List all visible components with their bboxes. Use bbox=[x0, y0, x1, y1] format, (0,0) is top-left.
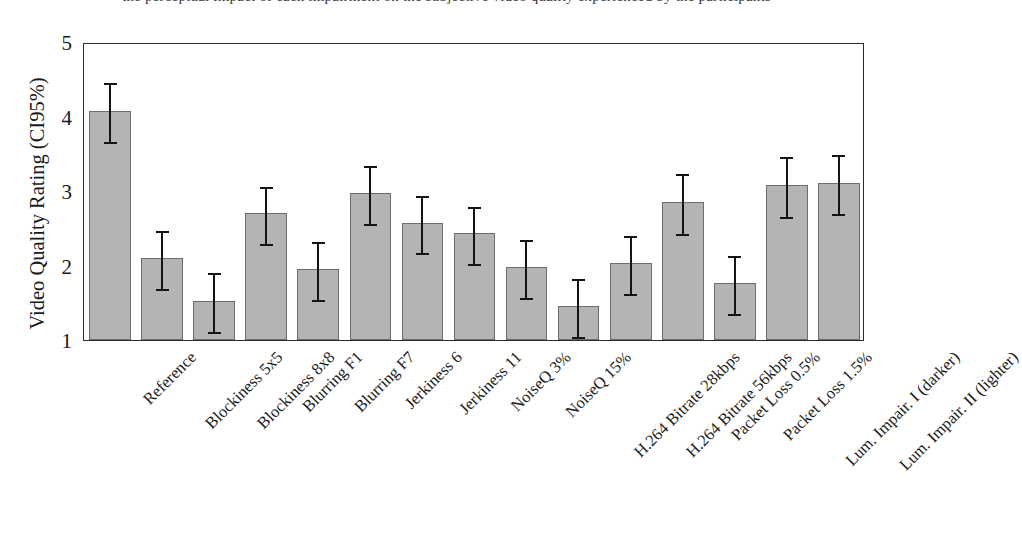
error-bar-cap-lower bbox=[520, 298, 533, 300]
x-tick-label: Jerkiness 6 bbox=[403, 349, 466, 412]
y-tick-label-1: 1 bbox=[62, 331, 73, 352]
error-bar-cap-upper bbox=[624, 236, 637, 238]
error-bar-cap-lower bbox=[468, 264, 481, 266]
y-tick-label-5: 5 bbox=[62, 33, 73, 54]
error-bar-line bbox=[473, 207, 475, 264]
x-tick-label: NoiseQ 3% bbox=[508, 349, 574, 415]
error-bar-cap-upper bbox=[468, 207, 481, 209]
error-bar-line bbox=[161, 231, 163, 289]
error-bar-line bbox=[577, 279, 579, 336]
error-bar-cap-lower bbox=[832, 214, 845, 216]
x-tick-label: Jerkiness 11 bbox=[457, 349, 526, 418]
error-bar-cap-lower bbox=[624, 294, 637, 296]
error-bar-cap-upper bbox=[728, 256, 741, 258]
error-bar-cap-lower bbox=[260, 244, 273, 246]
x-tick-label: Blurring F7 bbox=[352, 349, 418, 415]
error-bar-cap-upper bbox=[676, 174, 689, 176]
bar bbox=[89, 111, 131, 340]
error-bar-line bbox=[682, 174, 684, 234]
y-tick-label-3: 3 bbox=[62, 182, 73, 203]
error-bar-line bbox=[734, 256, 736, 314]
clipped-caption-line: the perceptual impact of each impairment… bbox=[0, 0, 893, 6]
plot-area bbox=[83, 43, 864, 341]
error-bar-cap-upper bbox=[416, 196, 429, 198]
error-bar-cap-upper bbox=[520, 240, 533, 242]
error-bar-line bbox=[525, 240, 527, 298]
x-tick-label: H.264 Bitrate 56kbps bbox=[683, 349, 795, 461]
error-bar-cap-upper bbox=[364, 166, 377, 168]
error-bar-cap-lower bbox=[104, 142, 117, 144]
error-bar-cap-lower bbox=[728, 314, 741, 316]
x-tick-label: Packet Loss 0.5% bbox=[728, 349, 823, 444]
error-bar-line bbox=[109, 83, 111, 142]
x-tick-label: H.264 Bitrate 28kbps bbox=[631, 349, 743, 461]
bars-layer bbox=[84, 44, 863, 340]
error-bar-cap-lower bbox=[364, 224, 377, 226]
error-bar-line bbox=[786, 157, 788, 217]
error-bar-cap-lower bbox=[208, 332, 221, 334]
error-bar-cap-lower bbox=[416, 253, 429, 255]
error-bar-cap-upper bbox=[156, 231, 169, 233]
error-bar-line bbox=[317, 242, 319, 300]
x-tick-label: Packet Loss 1.5% bbox=[780, 349, 875, 444]
error-bar-cap-upper bbox=[312, 242, 325, 244]
x-tick-label: Lum. Impair. II (lighter) bbox=[897, 349, 1022, 474]
error-bar-cap-upper bbox=[208, 273, 221, 275]
error-bar-cap-upper bbox=[780, 157, 793, 159]
x-tick-label: Blurring F1 bbox=[300, 349, 366, 415]
error-bar-line bbox=[630, 236, 632, 294]
error-bar-cap-lower bbox=[780, 217, 793, 219]
x-tick-label: Reference bbox=[141, 349, 200, 408]
y-tick-label-4: 4 bbox=[62, 107, 73, 128]
error-bar-cap-upper bbox=[260, 187, 273, 189]
y-axis-tick-labels: 12345 bbox=[0, 43, 80, 341]
x-tick-label: Blockiness 8x8 bbox=[255, 349, 338, 432]
error-bar-cap-upper bbox=[104, 83, 117, 85]
error-bar-line bbox=[213, 273, 215, 331]
error-bar-cap-lower bbox=[572, 337, 585, 339]
error-bar-cap-lower bbox=[156, 289, 169, 291]
error-bar-cap-upper bbox=[572, 279, 585, 281]
error-bar-line bbox=[421, 196, 423, 253]
error-bar-cap-upper bbox=[832, 155, 845, 157]
y-tick-label-2: 2 bbox=[62, 256, 73, 277]
error-bar-line bbox=[369, 166, 371, 224]
error-bar-line bbox=[265, 187, 267, 244]
x-tick-label: Blockiness 5x5 bbox=[203, 349, 286, 432]
x-tick-label: Lum. Impair. I (darker) bbox=[843, 349, 963, 469]
error-bar-line bbox=[838, 155, 840, 214]
error-bar-cap-lower bbox=[312, 300, 325, 302]
error-bar-cap-lower bbox=[676, 234, 689, 236]
x-tick-label: NoiseQ 15% bbox=[562, 349, 634, 421]
